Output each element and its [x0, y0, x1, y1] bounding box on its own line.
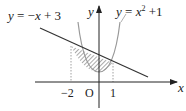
x-axis-label: x	[177, 80, 184, 95]
line-equation-label: y = −x + 3	[6, 8, 61, 23]
parabola-equation-label: y = x2 +1	[114, 4, 163, 19]
graph-figure: y = −x + 3 y = x2 +1 y x O −2 1	[0, 0, 186, 111]
y-axis-label: y	[86, 4, 94, 19]
tick-label-neg2: −2	[61, 86, 74, 100]
tick-label-1: 1	[110, 86, 116, 100]
origin-label: O	[85, 86, 94, 100]
